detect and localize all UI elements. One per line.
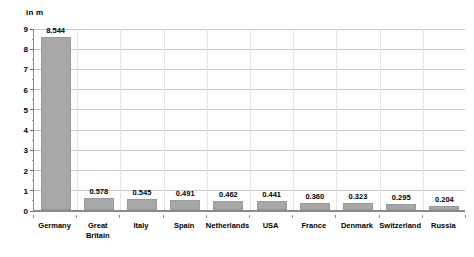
- bar[interactable]: [386, 204, 416, 210]
- y-axis-tick-label: 2: [24, 166, 28, 175]
- x-axis-category-label: Great Britain: [76, 215, 119, 241]
- bar-slot: 0.323: [336, 29, 379, 210]
- y-axis-tick-label: 3: [24, 146, 28, 155]
- bar[interactable]: [127, 199, 157, 210]
- y-axis-tick-label: 5: [24, 105, 28, 114]
- bar-slot: 0.462: [207, 29, 250, 210]
- x-axis-category-label: Italy: [119, 215, 162, 231]
- y-axis-tick-label: 1: [24, 186, 28, 195]
- bar-slot: 0.545: [120, 29, 163, 210]
- bar[interactable]: [170, 200, 200, 210]
- gridline: [34, 211, 465, 212]
- bar-slot: 8.544: [34, 29, 77, 210]
- bar[interactable]: [213, 201, 243, 210]
- bar-slot: 0.578: [77, 29, 120, 210]
- bar[interactable]: [41, 37, 71, 210]
- bar-slot: 0.204: [423, 29, 466, 210]
- bar-value-label: 0.295: [392, 193, 411, 202]
- x-axis-tick: [465, 215, 466, 218]
- bar[interactable]: [257, 201, 287, 210]
- x-axis-category-label: Denmark: [335, 215, 378, 231]
- x-axis-category-label: Netherlands: [206, 215, 249, 231]
- y-axis-tick-label: 4: [24, 126, 28, 135]
- bar[interactable]: [429, 206, 459, 210]
- bar-chart: in m 0123456789 8.5440.5780.5450.4910.46…: [0, 0, 474, 257]
- y-axis-tick-label: 9: [24, 25, 28, 34]
- plot-area: 0123456789 8.5440.5780.5450.4910.4620.44…: [33, 29, 465, 211]
- bar-value-label: 0.462: [219, 190, 238, 199]
- bar-series: 8.5440.5780.5450.4910.4620.4410.3600.323…: [34, 29, 465, 210]
- y-axis-tick: [30, 211, 34, 212]
- y-axis-tick-label: 7: [24, 65, 28, 74]
- bar-slot: 0.295: [380, 29, 423, 210]
- bar-slot: 0.491: [164, 29, 207, 210]
- bar[interactable]: [343, 203, 373, 210]
- bar-value-label: 8.544: [46, 26, 65, 35]
- bar-value-label: 0.491: [176, 189, 195, 198]
- bar-value-label: 0.545: [133, 188, 152, 197]
- y-axis-tick-label: 0: [24, 207, 28, 216]
- x-axis-category-label: Switzerland: [379, 215, 422, 231]
- x-axis-category-label: Spain: [163, 215, 206, 231]
- y-axis-tick-label: 8: [24, 45, 28, 54]
- bar[interactable]: [84, 198, 114, 210]
- bar[interactable]: [300, 203, 330, 210]
- bar-value-label: 0.578: [89, 187, 108, 196]
- bar-slot: 0.360: [293, 29, 336, 210]
- bar-value-label: 0.323: [349, 192, 368, 201]
- y-axis-tick-label: 6: [24, 85, 28, 94]
- x-axis-category-label: Germany: [33, 215, 76, 231]
- x-axis-category-label: Russia: [422, 215, 465, 231]
- bar-slot: 0.441: [250, 29, 293, 210]
- x-axis-category-labels: GermanyGreat BritainItalySpainNetherland…: [33, 215, 465, 255]
- bar-value-label: 0.360: [305, 192, 324, 201]
- bar-value-label: 0.204: [435, 195, 454, 204]
- x-axis-category-label: France: [292, 215, 335, 231]
- y-axis-unit-label: in m: [26, 8, 43, 17]
- bar-value-label: 0.441: [262, 190, 281, 199]
- x-axis-category-label: USA: [249, 215, 292, 231]
